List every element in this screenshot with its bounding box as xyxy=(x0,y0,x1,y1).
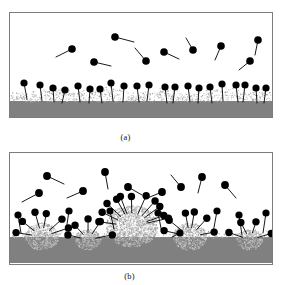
aggregate-molecule xyxy=(128,193,135,213)
molecule-head xyxy=(12,229,19,236)
molecule-head xyxy=(103,200,110,207)
molecule-head xyxy=(145,81,152,88)
substrate-slab xyxy=(10,237,272,263)
molecule-head xyxy=(232,81,239,88)
molecule-head xyxy=(120,82,127,89)
free-molecule xyxy=(221,181,236,198)
adsorbed-molecule xyxy=(262,209,269,233)
molecule-head xyxy=(71,222,78,229)
molecule-head xyxy=(133,82,140,89)
molecule-head xyxy=(35,189,43,197)
molecule-head xyxy=(165,217,172,224)
free-molecule xyxy=(101,168,109,189)
panel-b xyxy=(9,152,273,265)
aggregate-molecule xyxy=(197,215,211,230)
molecule-head xyxy=(117,193,124,200)
molecule-head xyxy=(203,215,210,222)
molecule-head xyxy=(74,82,81,89)
molecule-head xyxy=(106,207,113,214)
molecule-head xyxy=(43,210,50,217)
molecule-head xyxy=(225,229,232,236)
aggregate-molecule xyxy=(71,222,83,235)
adsorbed-monolayer xyxy=(20,79,269,103)
free-molecule xyxy=(67,187,87,198)
adsorbed-molecule xyxy=(262,84,269,103)
molecule-head xyxy=(182,209,189,216)
molecule-head xyxy=(61,86,68,93)
adsorbed-molecule xyxy=(96,85,103,103)
molecule-head xyxy=(171,83,178,90)
molecule-head xyxy=(246,57,254,65)
free-molecule xyxy=(198,173,206,193)
molecule-head xyxy=(156,203,163,210)
molecule-head xyxy=(65,207,72,214)
free-molecule xyxy=(22,189,43,202)
molecule-head xyxy=(109,231,116,238)
free-molecule xyxy=(160,48,179,59)
molecule-head xyxy=(262,209,269,216)
free-molecule xyxy=(90,58,111,66)
molecule-head xyxy=(101,168,109,176)
molecule-head xyxy=(43,172,51,180)
aggregate-molecule xyxy=(19,218,34,231)
molecule-head xyxy=(210,228,217,235)
free-molecule xyxy=(56,45,76,57)
aggregate-molecule xyxy=(49,215,65,230)
adsorbed-molecule xyxy=(195,84,202,103)
free-molecule xyxy=(171,175,185,191)
panel-b-diagram xyxy=(10,153,272,264)
molecule-head xyxy=(142,57,150,65)
molecule-head xyxy=(90,58,98,66)
molecule-head xyxy=(177,183,185,191)
molecule-head xyxy=(184,82,191,89)
panel-a-caption: (a) xyxy=(0,132,266,142)
molecule-head xyxy=(158,188,166,196)
molecule-head xyxy=(235,211,242,218)
aggregate-molecule xyxy=(165,217,182,231)
molecule-head xyxy=(176,229,183,236)
free-molecule xyxy=(111,33,134,42)
molecule-head xyxy=(96,85,103,92)
molecule-head xyxy=(14,211,21,218)
molecule-head xyxy=(31,209,38,216)
molecule-head xyxy=(218,80,225,87)
free-molecule xyxy=(186,38,197,54)
molecule-head xyxy=(58,215,65,222)
molecule-head xyxy=(195,84,202,91)
molecule-head xyxy=(262,84,269,91)
molecule-head xyxy=(79,187,87,195)
molecule-head xyxy=(213,207,220,214)
free-molecule xyxy=(239,57,254,70)
molecule-head xyxy=(252,84,259,91)
molecule-head xyxy=(161,83,168,90)
panel-a-diagram xyxy=(10,13,272,117)
aggregate-molecule xyxy=(200,228,218,235)
free-molecule xyxy=(254,36,262,55)
panel-a xyxy=(9,12,273,118)
molecule-head xyxy=(64,231,71,238)
molecule-head xyxy=(68,45,76,53)
molecule-head xyxy=(254,36,262,44)
molecule-head xyxy=(252,218,259,225)
molecule-head xyxy=(189,46,197,54)
molecule-head xyxy=(111,33,119,41)
molecule-head xyxy=(268,230,272,237)
adsorbed-molecule xyxy=(213,207,221,233)
molecule-head xyxy=(20,79,27,86)
molecule-head xyxy=(95,218,102,225)
figure-surfactant-adsorption: (a) (b) xyxy=(0,0,281,285)
molecule-head xyxy=(221,181,229,189)
adsorbed-molecule xyxy=(107,79,114,101)
molecule-head xyxy=(107,79,114,86)
substrate-slab xyxy=(10,101,272,117)
molecule-head xyxy=(241,81,248,88)
molecule-head xyxy=(84,215,91,222)
free-molecule xyxy=(215,42,225,60)
adsorbed-molecule xyxy=(61,86,68,103)
free-monomers xyxy=(56,33,262,70)
panel-b-caption: (b) xyxy=(0,271,270,281)
molecule-head xyxy=(49,84,56,91)
molecule-head xyxy=(128,193,135,200)
molecule-head xyxy=(154,209,161,216)
molecule-head xyxy=(98,209,105,216)
